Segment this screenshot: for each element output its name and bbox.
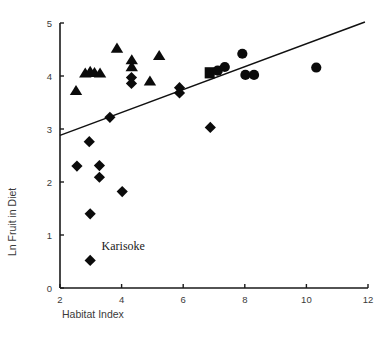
data-point-diamond	[126, 78, 137, 89]
data-point-triangle	[153, 50, 165, 60]
y-tick-label: 4	[47, 71, 52, 82]
y-tick-label: 1	[47, 230, 52, 241]
data-point-circle	[311, 62, 321, 72]
annotation-label: Karisoke	[102, 239, 145, 253]
data-point-circle	[237, 49, 247, 59]
y-tick-label: 3	[47, 124, 52, 135]
data-point-triangle	[70, 85, 82, 95]
data-point-diamond	[94, 160, 105, 171]
data-point-diamond	[85, 208, 96, 219]
data-point-diamond	[84, 136, 95, 147]
data-markers-group	[70, 43, 322, 267]
chart-canvas: 24681012 012345 Karisoke Habitat Index L…	[0, 0, 392, 344]
data-point-circle	[220, 62, 230, 72]
y-tick-label: 2	[47, 177, 52, 188]
y-tick-label: 5	[47, 18, 52, 29]
y-axis-tick-labels: 012345	[47, 18, 52, 294]
x-tick-label: 10	[301, 294, 312, 305]
x-axis-title: Habitat Index	[62, 308, 125, 320]
data-point-triangle	[144, 75, 156, 85]
data-point-diamond	[117, 186, 128, 197]
point-annotations-group: Karisoke	[102, 239, 145, 253]
data-point-circle	[249, 70, 259, 80]
data-point-triangle	[111, 43, 123, 53]
data-point-diamond	[94, 172, 105, 183]
x-tick-label: 8	[242, 294, 247, 305]
y-tick-label: 0	[47, 283, 52, 294]
scatter-plot-figure: 24681012 012345 Karisoke Habitat Index L…	[0, 0, 392, 344]
data-point-diamond	[205, 122, 216, 133]
x-axis-tick-labels: 24681012	[57, 294, 373, 305]
data-point-diamond	[71, 161, 82, 172]
x-tick-label: 12	[363, 294, 374, 305]
y-axis-title: Ln Fruit in Diet	[6, 188, 18, 256]
data-point-diamond	[85, 255, 96, 266]
x-tick-label: 4	[119, 294, 124, 305]
data-point-diamond	[104, 112, 115, 123]
x-tick-label: 2	[57, 294, 62, 305]
x-tick-label: 6	[181, 294, 186, 305]
